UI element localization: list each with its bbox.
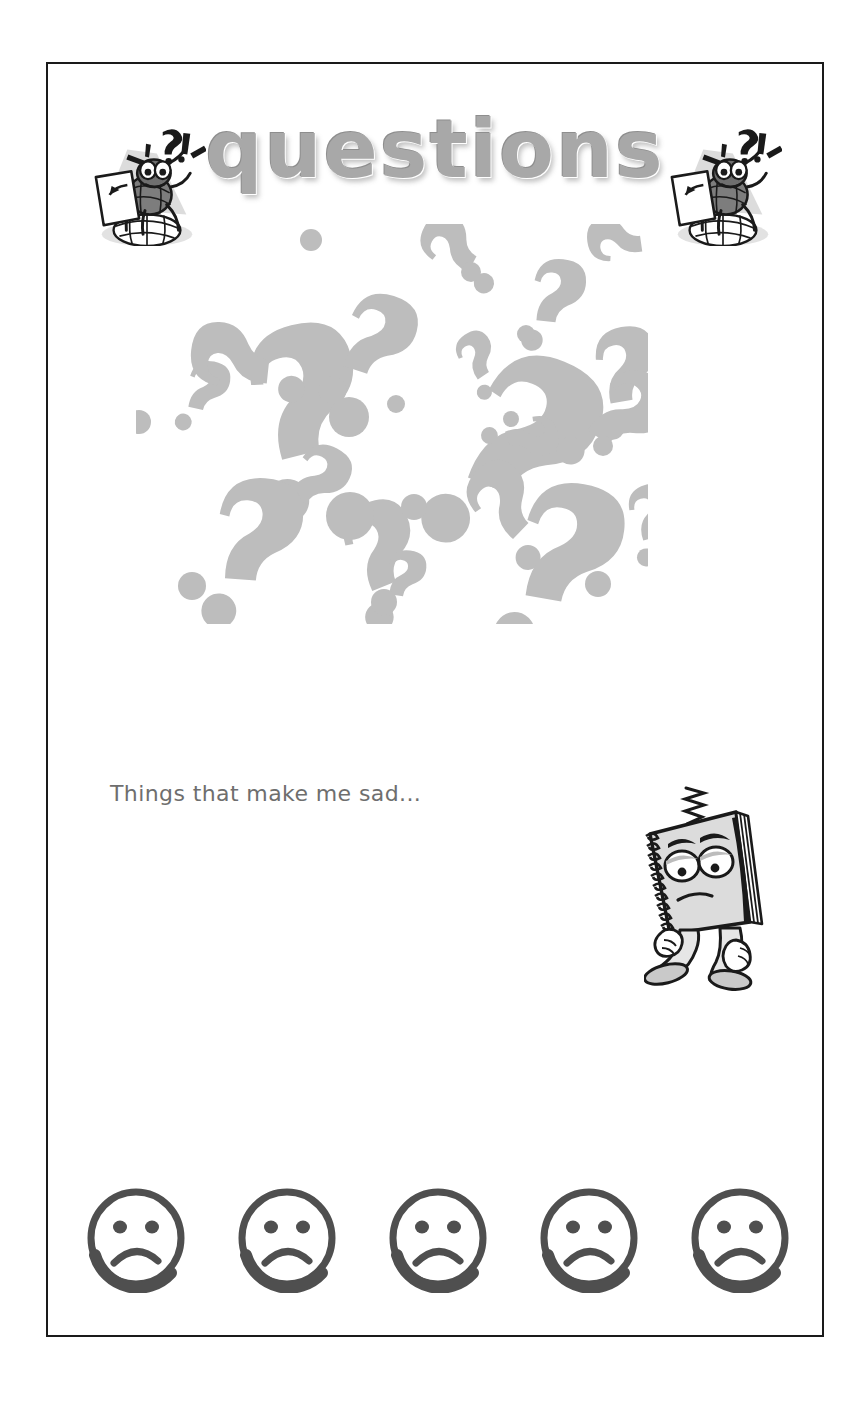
question-mark-dot bbox=[136, 410, 151, 434]
sad-face-5[interactable] bbox=[686, 1183, 794, 1293]
sad-face-2[interactable] bbox=[233, 1183, 341, 1293]
sad-face-3[interactable] bbox=[384, 1183, 492, 1293]
question-mark-dot bbox=[387, 395, 405, 413]
worksheet-page: questions bbox=[46, 62, 824, 1337]
question-mark-dot bbox=[300, 229, 322, 251]
question-mark-collage bbox=[136, 224, 648, 624]
question-mark-glyph bbox=[584, 224, 648, 270]
question-mark-glyph bbox=[445, 325, 516, 403]
header-band: questions bbox=[48, 64, 822, 244]
question-mark-dot bbox=[178, 572, 206, 600]
sad-face-1[interactable] bbox=[82, 1183, 190, 1293]
sad-notebook-icon bbox=[644, 782, 796, 994]
question-mark-dot bbox=[503, 411, 519, 427]
question-mark-dot bbox=[401, 494, 427, 520]
prompt-text: Things that make me sad... bbox=[110, 781, 421, 806]
sad-face-4[interactable] bbox=[535, 1183, 643, 1293]
question-mark-glyph bbox=[200, 474, 305, 624]
question-mark-dot bbox=[371, 589, 397, 615]
sad-face-rating-row[interactable] bbox=[82, 1182, 794, 1294]
question-mark-dot bbox=[593, 436, 613, 456]
question-mark-dot bbox=[585, 571, 611, 597]
question-mark-dot bbox=[461, 262, 481, 282]
question-mark-glyph bbox=[409, 224, 514, 297]
question-mark-dot bbox=[517, 325, 535, 343]
question-mark-dot bbox=[329, 397, 369, 437]
bug-with-paper-icon-right bbox=[664, 124, 782, 246]
question-mark-dot bbox=[326, 492, 374, 540]
